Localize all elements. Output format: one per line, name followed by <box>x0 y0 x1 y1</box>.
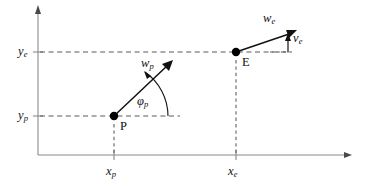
angle-arc-arrowhead <box>144 71 151 79</box>
x-axis-label-xp-base: x <box>106 164 112 178</box>
point-E-dot <box>232 48 240 56</box>
axes-group <box>35 5 352 158</box>
vector-label-ve-sub: e <box>299 36 303 46</box>
y-axis-label-ye: ye <box>18 45 28 59</box>
diagram-canvas <box>0 0 369 187</box>
y-axis-label-yp-base: y <box>18 108 24 122</box>
y-axis-arrowhead <box>35 5 41 14</box>
angle-label-phi-p: φp <box>137 95 148 109</box>
vector-label-wp-sub: p <box>150 61 154 71</box>
angle-arc-phi-p <box>145 72 168 116</box>
vector-label-wp: wp <box>141 57 154 71</box>
ticks-group <box>33 52 236 160</box>
y-axis-label-yp-sub: p <box>24 113 28 123</box>
angle-label-phi-p-base: φ <box>137 94 144 108</box>
vector-label-wp-base: w <box>141 56 149 70</box>
vector-label-we-sub: e <box>272 16 276 26</box>
y-axis-label-ye-base: y <box>18 44 24 58</box>
vector-label-we-base: w <box>263 11 271 25</box>
points-group <box>110 48 240 120</box>
vector-label-we: we <box>263 12 275 26</box>
angle-label-phi-p-sub: p <box>144 99 148 109</box>
point-P-dot <box>110 112 118 120</box>
vector-label-ve: ve <box>293 32 303 46</box>
vector-we-shaft <box>236 33 292 52</box>
x-axis-label-xp-sub: p <box>112 169 116 179</box>
x-axis-arrowhead <box>344 152 352 158</box>
point-label-P: P <box>120 120 127 133</box>
guide-lines-group <box>40 52 289 153</box>
x-axis-label-xe-sub: e <box>234 169 238 179</box>
angle-arc-phi-p-group <box>144 71 168 116</box>
y-axis-label-ye-sub: e <box>24 49 28 59</box>
y-axis-label-yp: yp <box>18 109 28 123</box>
vector-ve-group <box>270 33 292 52</box>
x-axis-label-xe-base: x <box>228 164 234 178</box>
x-axis-label-xp: xp <box>106 165 116 179</box>
x-axis-label-xe: xe <box>228 165 238 179</box>
vector-label-ve-base: v <box>293 31 299 45</box>
vector-kinematics-diagram: ye yp xp xe P E wp we ve φp <box>0 0 369 187</box>
point-label-E: E <box>242 56 250 69</box>
